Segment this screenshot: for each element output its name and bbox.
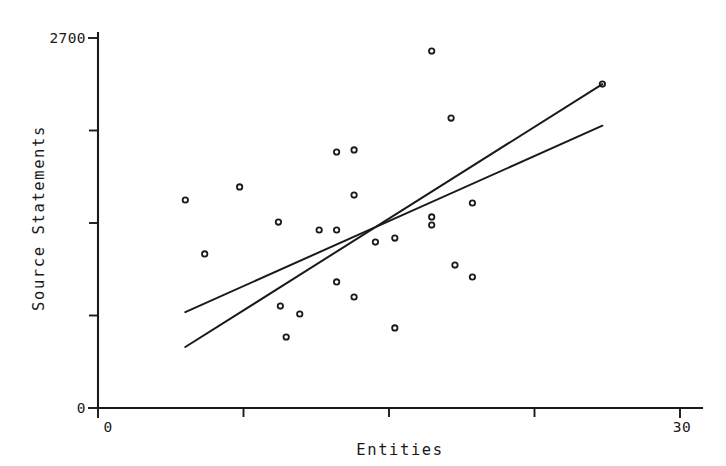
data-point xyxy=(429,222,434,227)
data-point xyxy=(392,235,397,240)
data-point xyxy=(334,149,339,154)
y-axis-ticks xyxy=(88,38,98,408)
data-point xyxy=(202,251,207,256)
regression-line-steep-fit xyxy=(185,84,602,347)
x-axis-title: Entities xyxy=(356,441,443,459)
data-point xyxy=(452,262,457,267)
data-point xyxy=(276,219,281,224)
data-point xyxy=(183,197,188,202)
scatter-plot-figure: 2700 0 0 30 Entities Source Statements xyxy=(0,0,726,466)
data-points-group xyxy=(183,48,606,339)
data-point xyxy=(334,279,339,284)
data-point xyxy=(429,48,434,53)
y-axis-min-tick-label: 0 xyxy=(77,400,86,416)
data-point xyxy=(278,303,283,308)
y-axis-max-tick-label: 2700 xyxy=(49,30,86,46)
data-point xyxy=(470,274,475,279)
data-point xyxy=(297,311,302,316)
x-axis-ticks xyxy=(98,408,680,418)
axes-group xyxy=(98,33,702,408)
data-point xyxy=(316,227,321,232)
x-axis-max-tick-label: 30 xyxy=(673,419,691,435)
regression-line-shallow-fit xyxy=(185,126,602,312)
x-axis-min-tick-label: 0 xyxy=(103,419,112,435)
data-point xyxy=(237,184,242,189)
data-point xyxy=(470,200,475,205)
data-point xyxy=(448,115,453,120)
y-axis-title: Source Statements xyxy=(30,125,48,311)
regression-lines-group xyxy=(185,84,602,347)
data-point xyxy=(373,239,378,244)
data-point xyxy=(351,147,356,152)
plot-canvas: 2700 0 0 30 Entities Source Statements xyxy=(0,0,726,466)
data-point xyxy=(283,334,288,339)
data-point xyxy=(429,214,434,219)
data-point xyxy=(392,325,397,330)
data-point xyxy=(351,294,356,299)
data-point xyxy=(334,227,339,232)
data-point xyxy=(351,192,356,197)
